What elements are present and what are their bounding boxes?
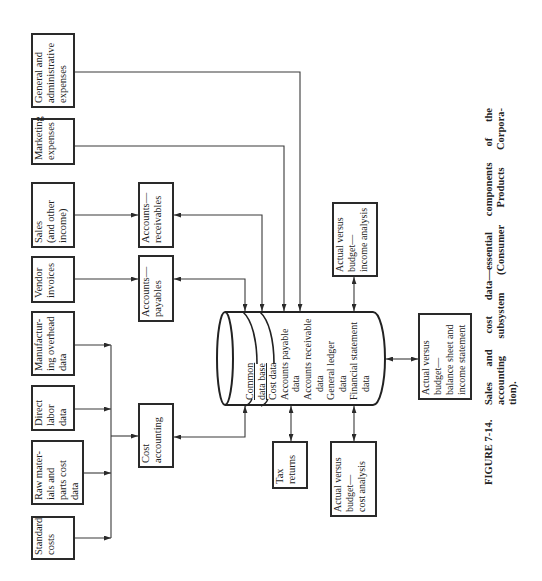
- box-text-line: Accounts—: [140, 184, 152, 246]
- box-text-line: expenses: [45, 120, 57, 163]
- box-income-analysis: Actual versus budget— income analysis: [332, 202, 378, 277]
- box-text-line: expenses: [57, 35, 69, 106]
- box-accounts-payables: Accounts— payables: [138, 255, 174, 322]
- box-text-line: returns: [286, 443, 298, 487]
- box-raw-materials: Raw mater- ials and parts cost data: [31, 440, 84, 505]
- common-database: Common data base Cost data Accounts paya…: [244, 313, 372, 405]
- box-text-line: Actual versus: [334, 204, 346, 275]
- box-text-line: Manufactur-: [33, 313, 45, 374]
- box-text-line: income analysis: [358, 204, 370, 275]
- box-cost-analysis: Actual versus budget— cost analysis: [330, 441, 377, 517]
- box-text-line: Standard: [33, 518, 45, 558]
- box-balance-sheet-income-statement: Actual versus budget— balance sheet and …: [418, 313, 472, 400]
- box-text-line: Accounts—: [140, 257, 152, 320]
- box-text-line: balance sheet and: [444, 315, 456, 398]
- box-tax-returns: Tax returns: [272, 441, 308, 489]
- box-accounts-receivables: Accounts— receivables: [138, 182, 174, 248]
- box-text-line: labor: [45, 387, 57, 429]
- box-standard-costs: Standard costs: [31, 516, 75, 560]
- figure-caption: FIGURE 7-14. Sales and cost data—essenti…: [483, 100, 519, 490]
- box-text-line: administrative: [45, 35, 57, 106]
- box-manufacturing-overhead: Manufactur- ing overhead data: [31, 311, 75, 376]
- database-item-continuation: data: [337, 313, 349, 405]
- box-text-line: income): [57, 184, 69, 246]
- figure-label: FIGURE 7-14.: [483, 405, 519, 490]
- box-text-line: data: [57, 313, 69, 374]
- box-text-line: ing overhead: [45, 313, 57, 374]
- caption-line: accounting subsystem (Consumer Products …: [495, 108, 507, 405]
- box-text-line: budget—: [346, 204, 358, 275]
- box-text-line: Sales: [33, 184, 45, 246]
- box-text-line: ials and: [45, 442, 57, 503]
- box-text-line: (and other: [45, 184, 57, 246]
- box-text-line: Marketing: [33, 120, 45, 163]
- connector-receivables-database: [174, 215, 262, 311]
- box-text-line: General and: [33, 35, 45, 106]
- box-text-line: costs: [45, 518, 57, 558]
- database-item: Accounts payable: [279, 313, 291, 405]
- database-item-continuation: data: [290, 313, 302, 405]
- box-text-line: payables: [152, 257, 164, 320]
- box-cost-accounting: Cost accounting: [138, 403, 174, 468]
- box-text-line: budget—: [344, 443, 356, 515]
- box-vendor-invoices: Vendor invoices: [31, 256, 75, 303]
- box-general-admin-expenses: General and administrative expenses: [31, 33, 75, 108]
- box-text-line: invoices: [45, 258, 57, 301]
- box-text-line: accounting: [152, 405, 164, 466]
- box-text-line: data: [69, 442, 81, 503]
- caption-body: Sales and cost data—essential components…: [483, 108, 519, 405]
- box-marketing-expenses: Marketing expenses: [31, 118, 75, 165]
- database-item: Cost data: [267, 313, 279, 405]
- connector-payables-database: [174, 279, 245, 311]
- box-text-line: Actual versus: [332, 443, 344, 515]
- box-sales-income: Sales (and other income): [31, 182, 75, 248]
- box-text-line: income statement: [456, 315, 468, 398]
- database-title-line: Common: [244, 313, 256, 405]
- caption-line: tion).: [507, 108, 519, 405]
- database-item-continuation: data: [360, 313, 372, 405]
- connector-marketing-to-database: [75, 146, 284, 311]
- database-title-line: data base: [256, 313, 268, 405]
- caption-line: Sales and cost data—essential components…: [483, 108, 495, 405]
- database-item: Accounts receivable: [302, 313, 314, 405]
- box-text-line: Tax: [274, 443, 286, 487]
- box-text-line: Raw mater-: [33, 442, 45, 503]
- connector-general-to-database: [75, 72, 300, 311]
- box-text-line: budget—: [432, 315, 444, 398]
- connector-cost-accounting-database: [174, 406, 245, 437]
- box-text-line: cost analysis: [356, 443, 368, 515]
- box-text-line: data: [57, 387, 69, 429]
- box-text-line: Vendor: [33, 258, 45, 301]
- box-text-line: Actual versus: [420, 315, 432, 398]
- box-text-line: Direct: [33, 387, 45, 429]
- diagram-canvas: General and administrative expenses Mark…: [0, 0, 542, 581]
- box-text-line: Cost: [140, 405, 152, 466]
- database-item: General ledger: [325, 313, 337, 405]
- box-text-line: parts cost: [57, 442, 69, 503]
- box-direct-labor: Direct labor data: [31, 385, 75, 431]
- database-item: Financial statement: [348, 313, 360, 405]
- box-text-line: receivables: [152, 184, 164, 246]
- database-item-continuation: data: [314, 313, 326, 405]
